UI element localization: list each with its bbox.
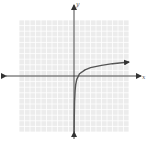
y-axis-label: y — [75, 0, 80, 8]
logarithm-graph: x y — [0, 0, 147, 142]
x-axis-label: x — [142, 73, 146, 80]
